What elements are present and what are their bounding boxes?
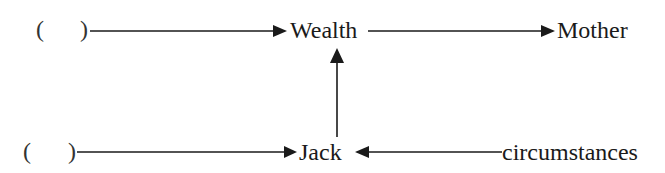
node-mother: Mother bbox=[557, 18, 628, 42]
node-circumstances: circumstances bbox=[502, 140, 638, 164]
blank-open-paren-top: ( bbox=[36, 17, 44, 41]
arrow-blank-to-jack bbox=[77, 146, 297, 158]
blank-close-paren-bottom: ) bbox=[68, 139, 76, 163]
node-wealth: Wealth bbox=[290, 18, 357, 42]
arrow-blank-to-wealth bbox=[90, 25, 287, 37]
node-jack: Jack bbox=[299, 140, 342, 164]
blank-close-paren-top: ) bbox=[80, 17, 88, 41]
arrow-jack-to-wealth bbox=[330, 48, 344, 137]
arrow-circumstances-to-jack bbox=[355, 146, 502, 158]
arrow-wealth-to-mother bbox=[368, 25, 555, 37]
blank-open-paren-bottom: ( bbox=[23, 139, 31, 163]
